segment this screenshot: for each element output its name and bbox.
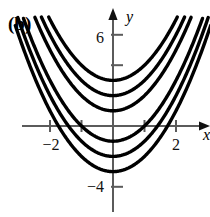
x-tick-label-2: 2 — [172, 136, 180, 153]
y-tick-label-minus-4: −4 — [87, 178, 104, 195]
x-axis-label: x — [202, 126, 210, 143]
panel-label: (b) — [8, 14, 31, 33]
y-tick-label-6: 6 — [96, 29, 104, 46]
y-axis-label: y — [124, 8, 134, 26]
parabola-family-chart: 6 −4 −2 2 y x — [0, 0, 210, 217]
y-axis-arrowhead — [108, 8, 117, 20]
x-tick-label-minus-2: −2 — [42, 136, 59, 153]
figure-panel: (b) 6 −4 −2 2 y x — [0, 0, 210, 217]
